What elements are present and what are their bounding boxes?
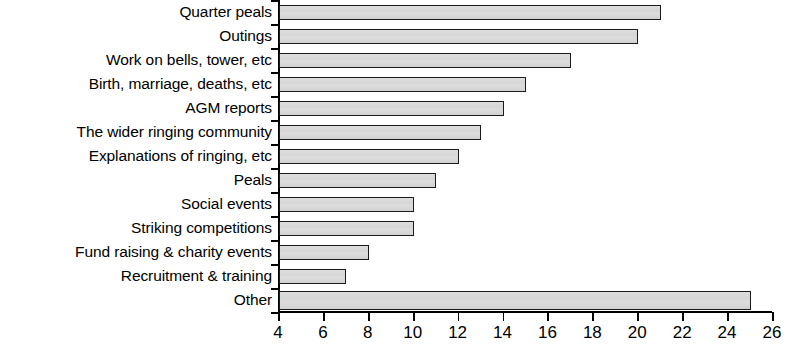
bar <box>279 197 414 212</box>
x-axis-tick <box>458 312 460 321</box>
x-axis-tick <box>682 312 684 321</box>
x-axis-tick <box>323 312 325 321</box>
x-axis-tick-label: 26 <box>752 324 786 341</box>
y-axis-tick <box>271 168 280 170</box>
x-axis-tick-label: 10 <box>393 324 433 341</box>
bar <box>279 29 638 44</box>
y-axis-tick <box>271 72 280 74</box>
bar <box>279 221 414 236</box>
category-label: Fund raising & charity events <box>0 244 272 260</box>
category-label: Social events <box>0 196 272 212</box>
x-axis-tick <box>637 312 639 321</box>
bar <box>279 291 751 310</box>
bar <box>279 101 504 116</box>
x-axis-tick-label: 14 <box>483 324 523 341</box>
bar <box>279 149 459 164</box>
x-axis-tick-label: 18 <box>572 324 612 341</box>
bar <box>279 245 369 260</box>
x-axis-tick <box>503 312 505 321</box>
x-axis-tick <box>368 312 370 321</box>
category-label: Outings <box>0 28 272 44</box>
x-axis-tick-label: 16 <box>527 324 567 341</box>
x-axis-tick-label: 4 <box>258 324 298 341</box>
x-axis-tick <box>772 312 774 321</box>
bar <box>279 269 346 284</box>
category-label: Recruitment & training <box>0 268 272 284</box>
x-axis-line <box>278 311 772 313</box>
category-axis-labels: Quarter pealsOutingsWork on bells, tower… <box>0 0 272 312</box>
bar <box>279 77 526 92</box>
category-label: Other <box>0 292 272 308</box>
x-axis-tick <box>278 312 280 321</box>
bar <box>279 53 571 68</box>
x-axis-tick <box>727 312 729 321</box>
category-label: Peals <box>0 172 272 188</box>
bar <box>279 5 661 20</box>
category-label: Birth, marriage, deaths, etc <box>0 76 272 92</box>
category-label: Explanations of ringing, etc <box>0 148 272 164</box>
y-axis-tick <box>271 144 280 146</box>
x-axis-tick-label: 6 <box>303 324 343 341</box>
category-label: Quarter peals <box>0 4 272 20</box>
y-axis-tick <box>271 192 280 194</box>
y-axis-tick <box>271 24 280 26</box>
bar <box>279 125 481 140</box>
x-axis-tick-label: 20 <box>617 324 657 341</box>
x-axis-tick <box>592 312 594 321</box>
category-label: AGM reports <box>0 100 272 116</box>
plot-area: 468101214161820222426 <box>278 0 775 312</box>
y-axis-tick <box>271 120 280 122</box>
x-axis-tick-label: 22 <box>662 324 702 341</box>
y-axis-tick <box>271 216 280 218</box>
x-axis-tick <box>547 312 549 321</box>
x-axis-tick-label: 8 <box>348 324 388 341</box>
y-axis-tick <box>271 288 280 290</box>
y-axis-tick <box>271 264 280 266</box>
x-axis-tick-label: 12 <box>438 324 478 341</box>
y-axis-tick <box>271 48 280 50</box>
bar <box>279 173 436 188</box>
category-label: The wider ringing community <box>0 124 272 140</box>
x-axis-tick <box>413 312 415 321</box>
category-label: Striking competitions <box>0 220 272 236</box>
category-label: Work on bells, tower, etc <box>0 52 272 68</box>
y-axis-tick <box>271 240 280 242</box>
y-axis-tick <box>271 96 280 98</box>
y-axis-tick <box>271 0 280 2</box>
x-axis-tick-label: 24 <box>707 324 747 341</box>
